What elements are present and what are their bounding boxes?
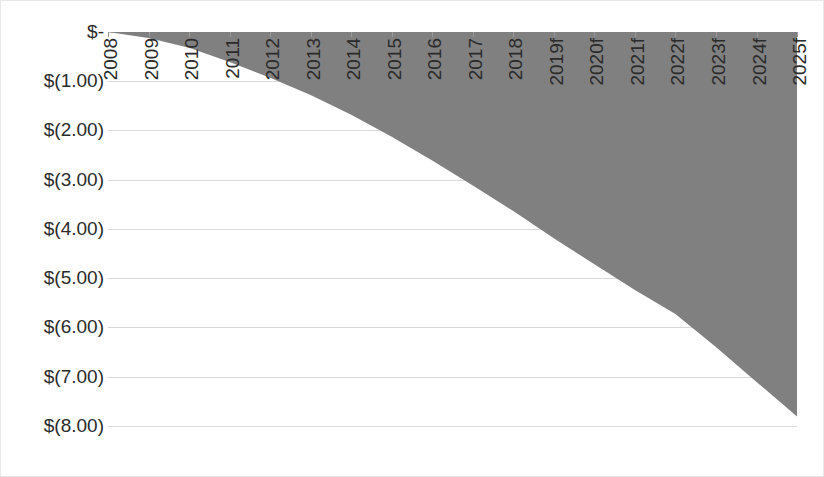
x-axis-tick-label: 2010 [182, 38, 201, 80]
x-axis-tick-label: 2016 [425, 38, 444, 80]
x-axis-tick-label: 2012 [263, 38, 282, 80]
x-axis-tick-label: 2023f [709, 38, 728, 86]
y-axis-tick-label: $(6.00) [10, 317, 104, 336]
y-axis-tick-label: $(2.00) [10, 120, 104, 139]
x-axis-tick-label: 2011 [223, 38, 242, 79]
y-axis-tick-label: $(4.00) [10, 219, 104, 238]
x-axis-tick-label: 2008 [101, 38, 120, 80]
y-axis-tick-label: $(1.00) [10, 71, 104, 90]
y-axis-labels: $-$(1.00)$(2.00)$(3.00)$(4.00)$(5.00)$(6… [0, 0, 104, 477]
x-axis-tick-label: 2017 [466, 38, 485, 80]
x-axis-tick-label: 2018 [506, 38, 525, 80]
x-axis-tick-label: 2014 [344, 38, 363, 80]
x-axis-labels: 2008200920102011201220132014201520162017… [108, 32, 797, 122]
y-axis-tick-label: $(8.00) [10, 416, 104, 435]
x-axis-tick-label: 2013 [304, 38, 323, 80]
x-axis-tick-label: 2021f [628, 38, 647, 86]
y-axis-tick-label: $(5.00) [10, 268, 104, 287]
chart-container: $-$(1.00)$(2.00)$(3.00)$(4.00)$(5.00)$(6… [0, 0, 824, 477]
x-axis-tick-label: 2020f [587, 38, 606, 86]
x-axis-tick-label: 2025f [790, 38, 809, 86]
x-axis-tick-label: 2024f [750, 38, 769, 86]
y-axis-tick-label: $(3.00) [10, 170, 104, 189]
x-axis-tick-label: 2019f [547, 38, 566, 86]
x-axis-tickmark [797, 32, 798, 37]
y-axis-tick-label: $(7.00) [10, 367, 104, 386]
x-axis-tick-label: 2022f [668, 38, 687, 86]
x-axis-tick-label: 2009 [142, 38, 161, 80]
y-axis-tick-label: $- [10, 22, 104, 41]
x-axis-tick-label: 2015 [385, 38, 404, 80]
